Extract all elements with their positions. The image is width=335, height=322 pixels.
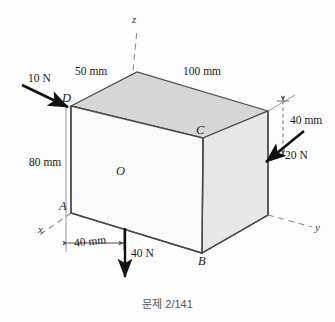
vertex-label-d: D	[62, 92, 71, 105]
dim-label-80mm: 80 mm	[29, 157, 61, 169]
origin-label: O	[116, 165, 125, 178]
problem-figure: 50 mm 100 mm 40 mm 80 mm 40 mm 10 N 20 N…	[0, 0, 335, 322]
dim-label-50mm: 50 mm	[75, 66, 107, 78]
vertex-label-c: C	[196, 124, 204, 137]
force-label-40n: 40 N	[131, 248, 154, 260]
axis-label-z: z	[132, 14, 136, 25]
force-label-10n: 10 N	[28, 73, 51, 85]
edge-c-b	[202, 138, 203, 253]
dim-label-100mm: 100 mm	[183, 66, 221, 78]
y-axis-line	[268, 215, 312, 227]
dim-label-40mm-right: 40 mm	[290, 115, 322, 127]
force-label-20n: 20 N	[285, 150, 308, 162]
vertex-label-a: A	[59, 200, 67, 213]
right-extension-line	[268, 95, 295, 111]
axis-label-y: y	[315, 222, 320, 233]
axis-label-x: x	[38, 224, 43, 235]
vertex-label-b: B	[198, 255, 206, 268]
figure-caption: 문제 2/141	[0, 295, 335, 311]
